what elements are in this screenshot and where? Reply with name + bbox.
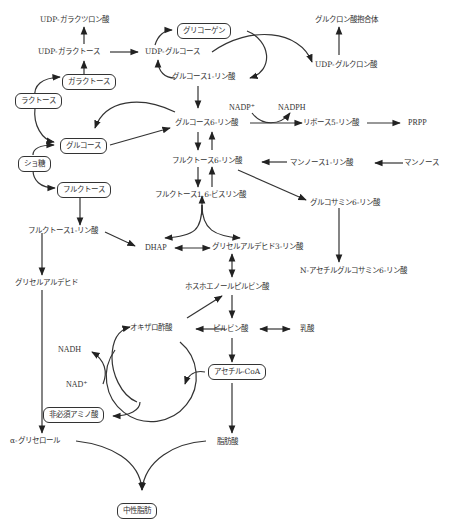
node-nadh: NADH [58, 345, 81, 355]
node-glyceraldehyde: グリセルアルデヒド [15, 278, 78, 288]
node-glucose: グルコース [60, 138, 107, 154]
node-glucuronide-conjugate: グルクロン酸抱合体 [315, 15, 378, 25]
node-pyruvate: ピルビン酸 [213, 324, 248, 334]
node-mannose-1-phosphate: マンノース1-リン酸 [290, 158, 353, 168]
node-acetyl-coa: アセチル-CoA [208, 364, 266, 380]
node-nad-plus: NAD⁺ [66, 380, 88, 390]
node-lactose: ラクトース [15, 93, 62, 109]
node-udp-glucose: UDP-グルコース [145, 47, 200, 57]
node-udp-galactose: UDP-ガラクトース [38, 47, 100, 57]
node-glucosamine-6-phosphate: グルコサミン6-リン酸 [310, 198, 380, 208]
node-glycogen: グリコーゲン [177, 23, 231, 39]
node-nadp-plus: NADP⁺ [229, 103, 255, 113]
node-alpha-glycerol: α-グリセロール [10, 436, 60, 446]
node-fatty-acid: 脂肪酸 [217, 437, 238, 447]
node-sucrose: ショ糖 [18, 156, 51, 172]
node-lactate: 乳酸 [300, 324, 314, 334]
node-galactose: ガラクトース [62, 74, 116, 90]
node-glyceraldehyde-3-phosphate: グリセルアルデヒド3-リン酸 [212, 242, 303, 252]
node-fructose-1-phosphate: フルクトース1-リン酸 [28, 226, 98, 236]
node-neutral-fat: 中性脂肪 [117, 503, 157, 519]
node-fructose-6-phosphate: フルクトース6-リン酸 [172, 156, 242, 166]
node-fructose: フルクトース [57, 182, 111, 198]
node-n-acetylglucosamine-6-phosphate: N-アセチルグルコサミン6-リン酸 [300, 266, 407, 276]
node-oxaloacetate: オキザロ酢酸 [130, 323, 172, 333]
node-fructose-1-6-bisphosphate: フルクトース1,6-ビスリン酸 [155, 190, 246, 200]
node-nadph: NADPH [278, 103, 306, 113]
node-udp-glucuronic-acid: UDP-グルクロン酸 [315, 60, 377, 70]
node-udp-galacturonic-acid: UDP-ガラクツロン酸 [40, 15, 109, 25]
metabolic-pathway-diagram: UDP-ガラクツロン酸 UDP-ガラクトース ガラクトース ラクトース グルコー… [0, 0, 453, 529]
node-dhap: DHAP [145, 243, 167, 253]
node-glucose-1-phosphate: グルコース1-リン酸 [172, 72, 235, 82]
node-nonessential-amino-acids: 非必須アミノ酸 [43, 407, 104, 423]
node-prpp: PRPP [408, 118, 427, 128]
node-phosphoenolpyruvate: ホスホエノールピルビン酸 [185, 282, 269, 292]
node-ribose-5-phosphate: リボース5-リン酸 [303, 118, 359, 128]
node-glucose-6-phosphate: グルコース6-リン酸 [175, 118, 238, 128]
node-mannose: マンノース [404, 158, 439, 168]
